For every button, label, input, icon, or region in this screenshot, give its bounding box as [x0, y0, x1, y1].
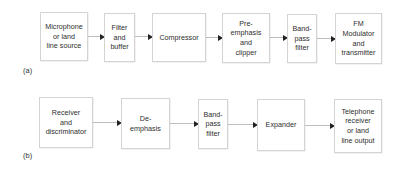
block-expander: Expander — [257, 99, 305, 151]
arrow-b4-to-b5 — [305, 125, 334, 126]
arrow-a1-to-a2 — [88, 36, 104, 37]
block-band-pass-filter-a: Band- pass filter — [287, 14, 317, 63]
block-microphone-source: Microphone or land line source — [40, 12, 88, 61]
block-compressor: Compressor — [152, 13, 206, 62]
arrow-b2-to-b3 — [170, 123, 198, 124]
panel-label-b: (b) — [23, 151, 32, 160]
panel-label-a: (a) — [23, 66, 32, 75]
arrow-a2-to-a3 — [135, 36, 152, 37]
block-filter-buffer: Filter and buffer — [104, 13, 135, 62]
block-pre-emphasis-clipper: Pre- emphasis and clipper — [222, 13, 270, 63]
arrow-b3-to-b4 — [228, 124, 257, 125]
block-de-emphasis: De- emphasis — [121, 98, 170, 149]
arrow-a3-to-a4 — [206, 37, 222, 38]
arrow-a4-to-a5 — [270, 37, 287, 38]
arrow-a5-to-a6 — [317, 38, 335, 39]
arrow-b1-to-b2 — [93, 122, 121, 123]
block-receiver-discriminator: Receiver and discriminator — [39, 97, 93, 148]
block-fm-modulator-transmitter: FM Modulator and transmitter — [335, 13, 382, 64]
block-band-pass-filter-b: Band- pass filter — [198, 99, 228, 149]
block-telephone-receiver-output: Telephone receiver or land line output — [334, 99, 382, 153]
